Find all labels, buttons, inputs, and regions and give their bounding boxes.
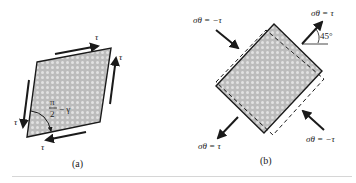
stress-arrow-bottom-right [303,111,324,130]
angle-denominator: 2 [50,109,55,119]
shear-label-right: τ [119,52,123,62]
sheared-element [27,48,111,137]
angle-arc-45 [316,29,319,43]
shear-label-top: τ [95,32,99,42]
shear-arrow-right [110,58,116,104]
shear-arrow-left [23,80,29,127]
shear-label-left: τ [14,117,18,127]
stress-arrow-top-left [216,30,238,48]
stress-label-bottom-left: σθ = τ [198,141,221,151]
stress-label-top-left: σθ = −τ [193,15,223,25]
divider-rule [12,176,352,177]
caption-a: (a) [72,158,83,170]
shear-stress-diagram: τ τ τ τ π 2 − γ (a) 45° σθ = −τ σθ = τ σ… [0,0,356,183]
angle-numerator: π [50,97,55,107]
shear-label-bottom: τ [41,142,45,152]
angle-label-45: 45° [320,31,333,41]
stress-label-bottom-right: σθ = −τ [306,134,336,144]
angle-suffix: − γ [59,104,70,114]
stress-arrow-bottom-left [218,117,238,138]
stress-label-top-right: σθ = τ [311,8,334,18]
panel-a: τ τ τ τ π 2 − γ (a) [14,32,123,170]
caption-b: (b) [260,155,272,167]
panel-b: 45° σθ = −τ σθ = τ σθ = τ σθ = −τ (b) [193,8,336,167]
shear-arrow-bottom [46,132,86,140]
